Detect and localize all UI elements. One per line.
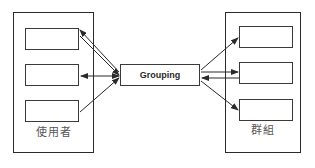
user-box-3 xyxy=(25,100,79,122)
users-label: 使用者 xyxy=(13,123,94,139)
group-box-2 xyxy=(239,62,293,84)
grouping-diagram: 使用者 Grouping 群組 xyxy=(0,0,315,168)
groups-label: 群組 xyxy=(225,121,301,137)
group-box-3 xyxy=(239,99,293,121)
grouping-label: Grouping xyxy=(140,70,181,80)
grouping-box: Grouping xyxy=(120,64,200,86)
user-box-2 xyxy=(25,64,79,86)
group-box-1 xyxy=(239,26,293,48)
user-box-1 xyxy=(25,28,79,50)
